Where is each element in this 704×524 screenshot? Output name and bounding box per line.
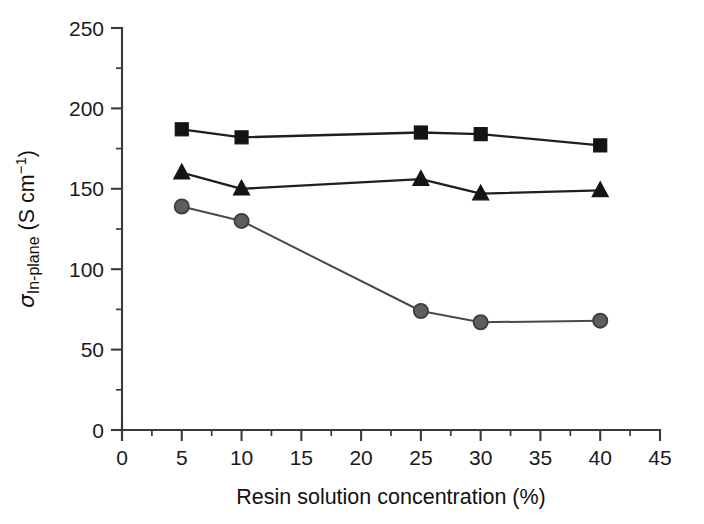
series-circle-series — [175, 199, 608, 329]
series-square-series — [175, 123, 606, 152]
x-axis-title: Resin solution concentration (%) — [236, 485, 546, 509]
x-tick-label: 45 — [648, 446, 671, 469]
data-point-triangle — [174, 164, 190, 179]
axis-tick-labels-group: 050100150200250051015202530354045 — [69, 17, 672, 470]
data-series-group — [174, 123, 609, 330]
line-chart-svg: 050100150200250051015202530354045 Resin … — [0, 0, 704, 524]
x-tick-label: 35 — [529, 446, 552, 469]
chart-figure: 050100150200250051015202530354045 Resin … — [0, 0, 704, 524]
y-tick-label: 0 — [92, 419, 104, 442]
y-axis-title: σIn-plane (S cm−1) — [12, 150, 42, 308]
data-point-triangle — [413, 171, 429, 186]
axes-group — [122, 28, 660, 430]
x-tick-label: 20 — [349, 446, 372, 469]
axis-ticks-group — [111, 28, 660, 441]
data-point-circle — [414, 304, 428, 318]
x-tick-label: 5 — [176, 446, 188, 469]
x-tick-label: 30 — [469, 446, 492, 469]
y-tick-label: 150 — [69, 177, 104, 200]
data-point-square — [235, 131, 248, 144]
x-tick-label: 15 — [290, 446, 313, 469]
data-point-square — [414, 126, 427, 139]
data-point-circle — [175, 199, 189, 213]
data-point-circle — [234, 214, 248, 228]
y-tick-label: 100 — [69, 258, 104, 281]
data-point-square — [594, 139, 607, 152]
axis-titles-group: Resin solution concentration (%)σIn-plan… — [12, 150, 546, 509]
y-tick-label: 50 — [81, 338, 104, 361]
data-point-circle — [474, 315, 488, 329]
x-tick-label: 0 — [116, 446, 128, 469]
data-point-circle — [593, 314, 607, 328]
data-point-square — [175, 123, 188, 136]
x-tick-label: 25 — [409, 446, 432, 469]
y-tick-label: 250 — [69, 17, 104, 40]
data-point-square — [474, 128, 487, 141]
data-point-triangle — [592, 182, 608, 197]
x-tick-label: 10 — [230, 446, 253, 469]
x-tick-label: 40 — [589, 446, 612, 469]
series-triangle-series — [174, 164, 609, 200]
y-tick-label: 200 — [69, 97, 104, 120]
